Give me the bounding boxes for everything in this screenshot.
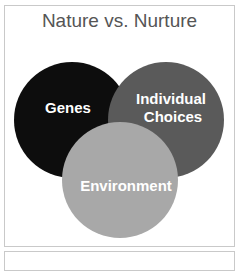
label-individual: Individual [136,90,206,107]
label-genes: Genes [45,99,91,116]
next-panel [4,251,235,271]
label-choices: Choices [144,108,202,125]
label-environment: Environment [80,177,172,194]
